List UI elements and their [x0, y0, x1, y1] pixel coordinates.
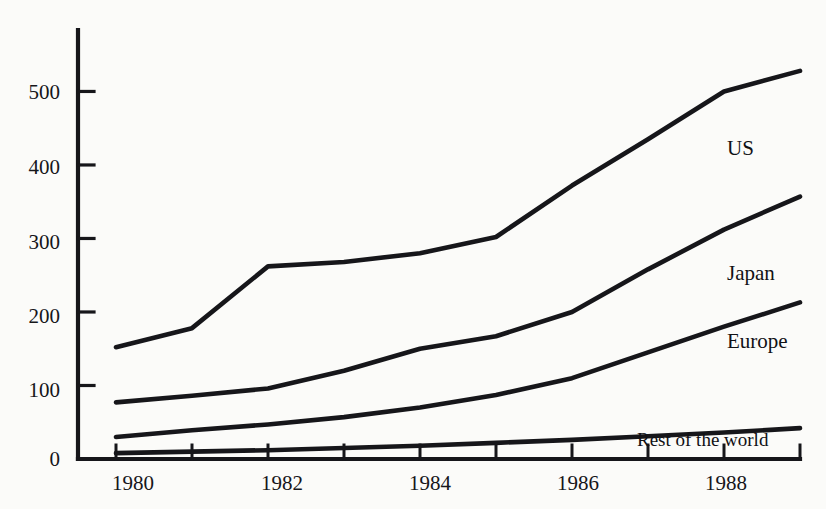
series-line-japan — [116, 197, 800, 403]
xtick-label-1980: 1980 — [112, 471, 154, 496]
series-label-europe: Europe — [727, 329, 788, 354]
series-line-us — [116, 71, 800, 347]
xtick-label-1984: 1984 — [409, 471, 451, 496]
chart-page: 0 100 200 300 400 500 1980 1982 1984 198… — [0, 0, 826, 509]
series-label-us: US — [727, 136, 754, 161]
ytick-label-100: 100 — [8, 378, 60, 403]
ytick-label-300: 300 — [8, 230, 60, 255]
xtick-label-1988: 1988 — [705, 471, 747, 496]
series-label-rest-of-the-world: Rest of the world — [637, 429, 768, 451]
ytick-label-0: 0 — [8, 447, 60, 472]
xtick-label-1982: 1982 — [261, 471, 303, 496]
ytick-label-500: 500 — [8, 80, 60, 105]
series-line-europe — [116, 302, 800, 437]
ytick-label-400: 400 — [8, 155, 60, 180]
series-lines-group — [116, 71, 800, 453]
ytick-label-200: 200 — [8, 304, 60, 329]
xtick-label-1986: 1986 — [557, 471, 599, 496]
series-label-japan: Japan — [727, 261, 775, 286]
